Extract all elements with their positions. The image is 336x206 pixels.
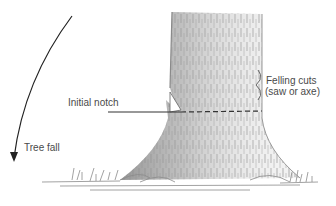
tree-felling-diagram: [0, 0, 336, 206]
felling-cuts-sublabel: (saw or axe): [265, 86, 320, 97]
initial-notch-label: Initial notch: [68, 97, 119, 108]
tree-fall-arrow: [14, 16, 72, 158]
arrowhead-icon: [10, 152, 18, 162]
felling-cuts-label: Felling cuts: [266, 75, 317, 86]
tree-fall-label: Tree fall: [24, 142, 60, 153]
